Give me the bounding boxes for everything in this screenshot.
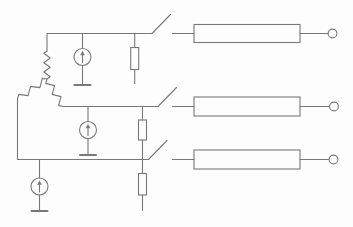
line-box-1 (194, 25, 300, 43)
resistor-1 (131, 48, 139, 70)
switch-3-blade (149, 141, 168, 160)
resistor-3 (139, 174, 147, 196)
current-source-2-arrow-head (86, 124, 91, 129)
switch-1-blade (152, 15, 171, 34)
output-terminal-3 (329, 155, 338, 164)
winding-left (18, 78, 48, 99)
schematic-canvas (0, 0, 353, 227)
resistor-2 (139, 120, 147, 140)
switch-2-blade (158, 88, 177, 107)
output-terminal-2 (330, 102, 339, 111)
current-source-1-arrow-head (80, 51, 85, 56)
winding-right (46, 79, 63, 107)
line-box-3 (194, 150, 300, 169)
current-source-3-arrow-head (37, 180, 42, 185)
output-terminal-1 (328, 29, 337, 38)
schematic-svg (0, 0, 353, 227)
line-box-2 (194, 97, 300, 116)
winding-vertical (44, 51, 50, 79)
